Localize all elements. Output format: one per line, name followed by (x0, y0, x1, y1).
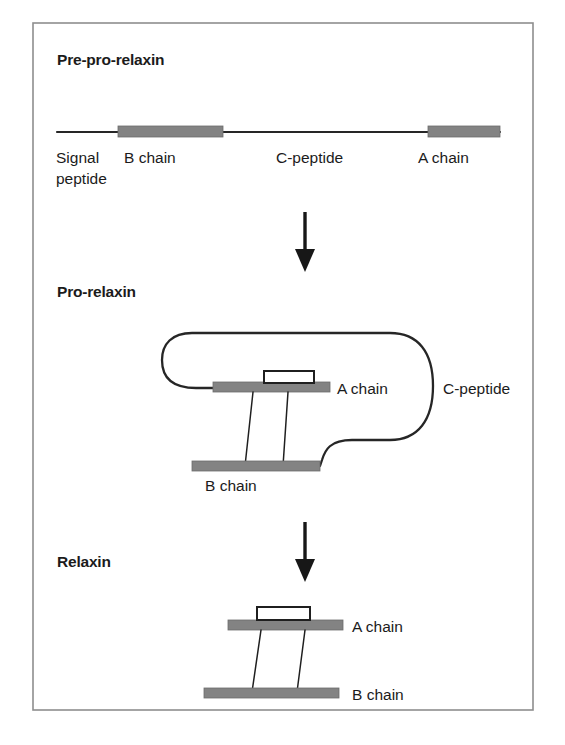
pre-pro-label-signal-peptide-line1: Signal (56, 149, 99, 166)
relaxin-a-chain-bar (228, 620, 343, 630)
stage-title-pre-pro-relaxin: Pre-pro-relaxin (57, 51, 164, 68)
pre-pro-label-b-chain: B chain (124, 149, 176, 166)
stage-title-pro-relaxin: Pro-relaxin (57, 283, 136, 300)
pre-pro-a-chain-bar (428, 126, 500, 137)
relaxin-label-a-chain: A chain (352, 618, 403, 635)
relaxin-processing-figure: Pre-pro-relaxin Signal peptide B chain C… (0, 0, 565, 745)
pro-relaxin-label-c-peptide: C-peptide (443, 380, 510, 397)
pro-relaxin-label-b-chain: B chain (205, 477, 257, 494)
pre-pro-label-a-chain: A chain (418, 149, 469, 166)
pro-relaxin-label-a-chain: A chain (337, 380, 388, 397)
relaxin-b-chain-bar (204, 688, 339, 698)
relaxin-a-chain-disulfide-box (257, 607, 310, 620)
pre-pro-label-signal-peptide-line2: peptide (56, 170, 107, 187)
pro-relaxin-b-chain-bar (192, 461, 320, 471)
stage-title-relaxin: Relaxin (57, 553, 111, 570)
figure-canvas: Pre-pro-relaxin Signal peptide B chain C… (0, 0, 565, 745)
pre-pro-label-c-peptide: C-peptide (276, 149, 343, 166)
pre-pro-b-chain-bar (118, 126, 223, 137)
relaxin-label-b-chain: B chain (352, 686, 404, 703)
pro-relaxin-a-chain-disulfide-box (264, 371, 314, 383)
